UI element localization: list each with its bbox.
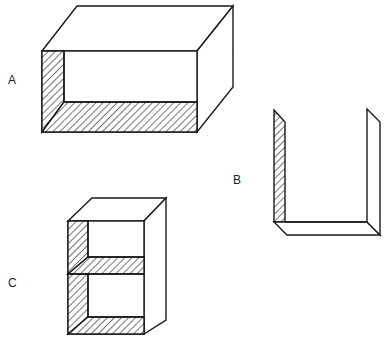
shape-b-right-panel: [367, 109, 380, 235]
shape-a: [42, 6, 233, 132]
label-b: B: [233, 174, 241, 186]
shape-c: [68, 198, 166, 334]
label-c: C: [8, 277, 17, 289]
diagram-canvas: [0, 0, 388, 342]
label-a: A: [8, 74, 16, 86]
shape-b: [274, 109, 380, 235]
shape-c-right-face: [144, 198, 166, 334]
shape-b-base: [274, 222, 380, 235]
shape-a-bottom-inner-floor: [42, 102, 197, 132]
shape-b-left-inner-wall: [274, 110, 285, 222]
diagram-figure: A B C: [0, 0, 388, 342]
